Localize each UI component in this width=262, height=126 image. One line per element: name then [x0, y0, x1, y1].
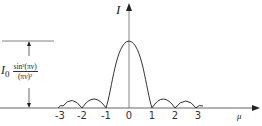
dimension-arrow-up-icon: [27, 41, 31, 46]
tick-label: 1: [145, 110, 159, 121]
formula-fraction: sin²(πν) (πν)²: [13, 62, 38, 81]
dimension-arrow-down-icon: [27, 103, 31, 108]
formula-denominator: (πν)²: [18, 72, 32, 81]
formula-numerator: sin²(πν): [13, 62, 38, 72]
tick-label: -2: [75, 110, 89, 121]
x-axis-label: μ: [237, 111, 242, 121]
dimension-formula: I0 sin²(πν) (πν)²: [1, 54, 38, 88]
intensity-curve: [58, 41, 203, 108]
x-axis-arrow-icon: [252, 105, 260, 111]
tick-label: -1: [99, 110, 113, 121]
y-axis-label: I: [116, 2, 120, 18]
formula-prefix: I0: [1, 63, 10, 79]
tick-label: 0: [122, 110, 136, 121]
tick-label: 2: [168, 110, 182, 121]
tick-label: 3: [191, 110, 205, 121]
y-axis-arrow-icon: [126, 3, 132, 11]
tick-label: -3: [53, 110, 67, 121]
diffraction-diagram: [0, 0, 262, 126]
